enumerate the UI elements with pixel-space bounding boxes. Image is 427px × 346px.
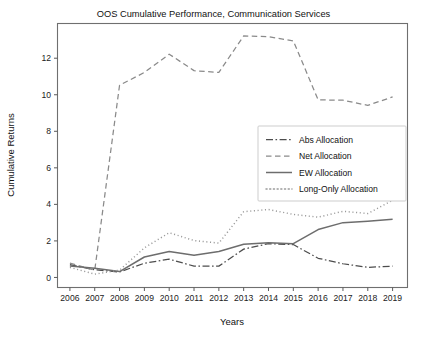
legend-label: Net Allocation [299,151,352,161]
x-tick-label: 2013 [234,293,253,303]
series-line-long-only-allocation [70,200,393,274]
x-tick-label: 2016 [309,293,328,303]
x-tick-label: 2006 [60,293,79,303]
legend-label: EW Allocation [299,168,352,178]
chart-legend: Abs AllocationNet AllocationEW Allocatio… [258,126,406,201]
y-tick-label: 12 [41,53,51,63]
y-tick-label: 6 [46,163,51,173]
x-tick-label: 2007 [85,293,104,303]
x-tick-label: 2008 [110,293,129,303]
x-axis-ticks: 2006200720082009201020112012201320142015… [60,288,402,304]
x-tick-label: 2010 [160,293,179,303]
x-tick-label: 2009 [135,293,154,303]
x-tick-label: 2014 [259,293,278,303]
line-chart: OOS Cumulative Performance, Communicatio… [0,0,427,346]
x-tick-label: 2019 [383,293,402,303]
y-tick-label: 2 [46,236,51,246]
x-axis-label: Years [220,316,244,327]
chart-container: OOS Cumulative Performance, Communicatio… [0,0,427,346]
y-axis-ticks: 024681012 [41,53,57,282]
legend-label: Abs Allocation [299,135,353,145]
x-tick-label: 2017 [333,293,352,303]
x-tick-label: 2015 [284,293,303,303]
y-tick-label: 0 [46,273,51,283]
y-tick-label: 8 [46,126,51,136]
y-tick-label: 10 [41,90,51,100]
y-tick-label: 4 [46,199,51,209]
x-tick-label: 2012 [209,293,228,303]
x-tick-label: 2018 [358,293,377,303]
legend-label: Long-Only Allocation [299,184,378,194]
chart-title: OOS Cumulative Performance, Communicatio… [97,9,331,19]
x-tick-label: 2011 [185,293,204,303]
y-axis-label: Cumulative Returns [5,113,16,197]
